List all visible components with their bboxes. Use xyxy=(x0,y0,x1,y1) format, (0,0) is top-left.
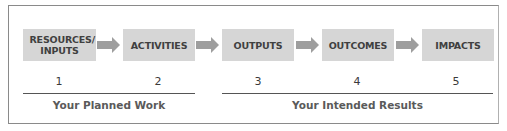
intended-results-divider xyxy=(222,93,493,94)
arrow-right-icon xyxy=(296,37,320,53)
step-number-4: 4 xyxy=(347,75,367,88)
step-label: OUTPUTS xyxy=(234,40,283,51)
arrow-right-icon xyxy=(396,37,420,53)
step-box-resources-inputs: RESOURCES/ INPUTS xyxy=(23,29,96,61)
step-number-2: 2 xyxy=(148,75,168,88)
step-box-activities: ACTIVITIES xyxy=(123,29,195,61)
step-label: RESOURCES/ INPUTS xyxy=(30,34,90,56)
group-label-intended-results: Your Intended Results xyxy=(222,99,493,111)
planned-work-divider xyxy=(23,93,195,94)
step-number-5: 5 xyxy=(446,75,466,88)
group-label-planned-work: Your Planned Work xyxy=(23,99,195,111)
arrow-right-icon xyxy=(97,37,121,53)
step-label: ACTIVITIES xyxy=(131,40,188,51)
step-label: IMPACTS xyxy=(435,40,480,51)
arrow-right-icon xyxy=(196,37,220,53)
step-number-1: 1 xyxy=(49,75,69,88)
step-box-impacts: IMPACTS xyxy=(422,29,494,61)
step-box-outputs: OUTPUTS xyxy=(222,29,294,61)
step-label: OUTCOMES xyxy=(329,40,388,51)
step-number-3: 3 xyxy=(248,75,268,88)
step-box-outcomes: OUTCOMES xyxy=(322,29,394,61)
